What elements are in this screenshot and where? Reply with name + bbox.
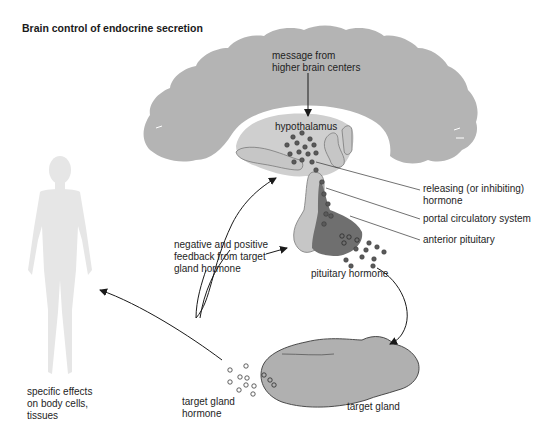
- label-anterior-pituitary: anterior pituitary: [423, 234, 495, 246]
- label-releasing-hormone: releasing (or inhibiting) hormone: [423, 183, 524, 207]
- label-portal-circulatory-system: portal circulatory system: [423, 213, 531, 225]
- label-feedback: negative and positive feedback from targ…: [174, 239, 268, 275]
- body-silhouette: [28, 156, 92, 374]
- target-gland-hormone-dots: [228, 364, 256, 396]
- label-message-from-higher-brain-centers: message from higher brain centers: [272, 50, 360, 74]
- target-gland-shape: [261, 337, 419, 408]
- label-pituitary-hormone: pituitary hormone: [311, 268, 388, 280]
- diagram-title: Brain control of endocrine secretion: [22, 22, 203, 34]
- label-specific-effects: specific effects on body cells, tissues: [27, 386, 92, 422]
- label-hypothalamus: hypothalamus: [275, 121, 337, 133]
- label-target-gland: target gland: [347, 401, 400, 413]
- feedback-pointer: [266, 248, 287, 254]
- label-target-gland-hormone: target gland hormone: [182, 396, 235, 420]
